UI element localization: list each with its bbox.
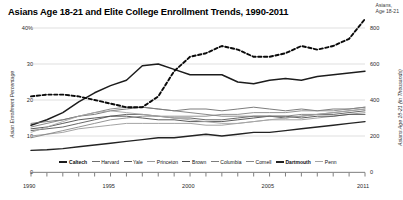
x-tick-2011: 2011 [357,183,369,189]
series-line-asians-age-18-21 [31,19,365,107]
plot-area [31,28,365,172]
legend-label: Brown [192,159,206,165]
legend-label: Princeton [157,159,178,165]
legend-label: Harvard [101,159,119,165]
legend-label: Caltech [69,159,87,165]
legend-swatch-icon [59,161,67,163]
legend-swatch-icon [124,161,132,162]
legend-swatch-icon [315,161,323,162]
legend-swatch-icon [211,161,219,162]
legend-item-dartmouth[interactable]: Dartmouth [276,159,311,165]
x-tick-1990: 1990 [23,183,35,189]
legend-label: Yale [133,159,143,165]
legend-item-penn[interactable]: Penn [315,159,336,165]
x-tick-2000: 2000 [182,183,194,189]
legend-label: Cornell [256,159,272,165]
legend-label: Dartmouth [285,159,310,165]
legend-swatch-icon [147,161,155,162]
y-tick-right-800: 800 [370,25,379,31]
legend-label: Columbia [220,159,241,165]
series-annotation-asians: Asians, Age 18-21 [375,2,399,14]
x-tick-1995: 1995 [103,183,115,189]
legend-label: Penn [325,159,337,165]
legend-item-yale[interactable]: Yale [124,159,143,165]
legend-item-caltech[interactable]: Caltech [59,159,87,165]
legend-swatch-icon [92,161,100,162]
legend-swatch-icon [276,161,284,163]
y-axis-right-label: Asians Age 18-21 (in Thousands) [397,69,403,146]
y-tick-right-600: 600 [370,61,379,67]
y-axis-left-label: Asian Enrollment Percentage [9,71,15,138]
page-title: Asians Age 18-21 and Elite College Enrol… [8,6,288,17]
legend-swatch-icon [182,161,190,162]
y-tick-right-200: 200 [370,133,379,139]
legend-item-cornell[interactable]: Cornell [246,159,271,165]
series-lines [31,28,365,172]
legend-swatch-icon [246,161,254,162]
legend-item-brown[interactable]: Brown [182,159,206,165]
y-tick-right-400: 400 [370,97,379,103]
chart-legend: CaltechHarvardYalePrincetonBrownColumbia… [31,157,365,166]
x-tick-2005: 2005 [262,183,274,189]
legend-item-columbia[interactable]: Columbia [211,159,242,165]
legend-item-princeton[interactable]: Princeton [147,159,178,165]
legend-item-harvard[interactable]: Harvard [92,159,119,165]
